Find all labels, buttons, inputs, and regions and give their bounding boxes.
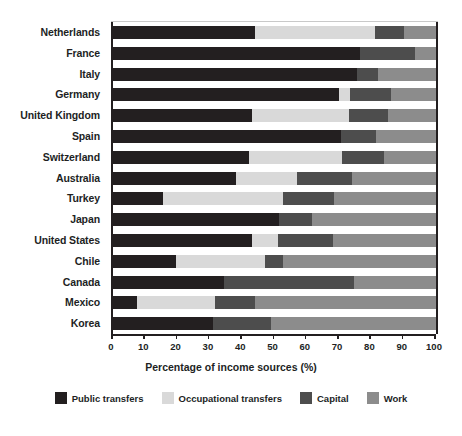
bar-segment-occupational-transfers bbox=[249, 151, 343, 164]
x-axis-tick-label: 0 bbox=[108, 341, 113, 352]
bar-row bbox=[113, 47, 436, 60]
y-axis-label-canada: Canada bbox=[0, 277, 100, 288]
y-axis-label-united-states: United States bbox=[0, 235, 100, 246]
bar-row bbox=[113, 26, 436, 39]
bar-segment-occupational-transfers bbox=[252, 234, 278, 247]
plot-area bbox=[111, 22, 438, 334]
bar-segment-work bbox=[376, 130, 436, 143]
x-axis-tick-label: 40 bbox=[235, 341, 246, 352]
y-axis-label-chile: Chile bbox=[0, 256, 100, 267]
bar-segment-occupational-transfers bbox=[255, 26, 375, 39]
bar-segment-public-transfers bbox=[113, 296, 137, 309]
legend-swatch-icon bbox=[55, 392, 67, 404]
bar-segment-capital bbox=[265, 255, 283, 268]
bar-row bbox=[113, 234, 436, 247]
bar-segment-capital bbox=[342, 151, 384, 164]
x-axis-tick bbox=[176, 334, 178, 339]
bar-segment-capital bbox=[224, 276, 353, 289]
bar-segment-capital bbox=[215, 296, 255, 309]
legend-item-occupational-transfers: Occupational transfers bbox=[162, 392, 282, 404]
x-axis-tick bbox=[111, 334, 113, 339]
bar-segment-capital bbox=[213, 317, 271, 330]
legend-swatch-icon bbox=[300, 392, 312, 404]
y-axis-label-italy: Italy bbox=[0, 69, 100, 80]
bar-segment-capital bbox=[349, 109, 388, 122]
x-axis-tick bbox=[273, 334, 275, 339]
bar-segment-public-transfers bbox=[113, 192, 163, 205]
legend-swatch-icon bbox=[367, 392, 379, 404]
bar-segment-work bbox=[378, 68, 436, 81]
bar-segment-public-transfers bbox=[113, 26, 255, 39]
bar-row bbox=[113, 130, 436, 143]
x-axis-tick bbox=[337, 334, 339, 339]
bar-row bbox=[113, 68, 436, 81]
bar-row bbox=[113, 255, 436, 268]
legend-item-work: Work bbox=[367, 392, 408, 404]
y-axis-label-turkey: Turkey bbox=[0, 193, 100, 204]
y-axis-label-spain: Spain bbox=[0, 131, 100, 142]
bar-row bbox=[113, 213, 436, 226]
bar-segment-public-transfers bbox=[113, 255, 176, 268]
bar-row bbox=[113, 276, 436, 289]
bar-segment-work bbox=[388, 109, 436, 122]
y-axis-label-australia: Australia bbox=[0, 173, 100, 184]
x-axis-tick bbox=[240, 334, 242, 339]
bar-segment-capital bbox=[360, 47, 415, 60]
y-axis-label-france: France bbox=[0, 48, 100, 59]
bar-segment-public-transfers bbox=[113, 151, 249, 164]
bar-segment-capital bbox=[341, 130, 377, 143]
bar-row bbox=[113, 151, 436, 164]
x-axis-tick bbox=[369, 334, 371, 339]
y-axis-label-japan: Japan bbox=[0, 214, 100, 225]
bar-row bbox=[113, 88, 436, 101]
bar-segment-capital bbox=[278, 234, 333, 247]
bar-segment-occupational-transfers bbox=[176, 255, 265, 268]
bar-segment-work bbox=[391, 88, 436, 101]
bar-segment-public-transfers bbox=[113, 88, 339, 101]
bar-row bbox=[113, 192, 436, 205]
bar-segment-work bbox=[333, 234, 436, 247]
bar-segment-capital bbox=[350, 88, 390, 101]
y-axis-label-germany: Germany bbox=[0, 89, 100, 100]
bar-segment-capital bbox=[375, 26, 404, 39]
bar-segment-public-transfers bbox=[113, 47, 360, 60]
bar-segment-public-transfers bbox=[113, 276, 224, 289]
bar-segment-occupational-transfers bbox=[137, 296, 215, 309]
legend-item-capital: Capital bbox=[300, 392, 349, 404]
bar-segment-work bbox=[255, 296, 436, 309]
x-axis-tick-label: 100 bbox=[426, 341, 442, 352]
x-axis-tick bbox=[143, 334, 145, 339]
x-axis-tick bbox=[402, 334, 404, 339]
y-axis-label-switzerland: Switzerland bbox=[0, 152, 100, 163]
legend-item-public-transfers: Public transfers bbox=[55, 392, 144, 404]
y-axis-category-labels: NetherlandsFranceItalyGermanyUnited King… bbox=[0, 22, 106, 334]
bar-segment-work bbox=[271, 317, 436, 330]
y-axis-label-united-kingdom: United Kingdom bbox=[0, 110, 100, 121]
x-axis-tick-label: 80 bbox=[364, 341, 375, 352]
bar-segment-work bbox=[354, 276, 436, 289]
bar-segment-capital bbox=[279, 213, 311, 226]
bar-segment-capital bbox=[297, 172, 352, 185]
bar-row bbox=[113, 109, 436, 122]
legend-swatch-icon bbox=[162, 392, 174, 404]
bar-segment-work bbox=[384, 151, 436, 164]
bar-row bbox=[113, 296, 436, 309]
bar-segment-occupational-transfers bbox=[252, 109, 349, 122]
bar-segment-occupational-transfers bbox=[163, 192, 283, 205]
x-axis-tick-label: 60 bbox=[300, 341, 311, 352]
x-axis-tick bbox=[434, 334, 436, 339]
legend-label: Capital bbox=[317, 393, 349, 404]
bar-segment-occupational-transfers bbox=[339, 88, 350, 101]
y-axis-label-netherlands: Netherlands bbox=[0, 27, 100, 38]
chart-legend: Public transfersOccupational transfersCa… bbox=[0, 392, 462, 404]
x-axis-tick-label: 10 bbox=[138, 341, 149, 352]
x-axis-tick bbox=[208, 334, 210, 339]
y-axis-label-korea: Korea bbox=[0, 318, 100, 329]
x-axis-tick bbox=[305, 334, 307, 339]
x-axis-tick-label: 20 bbox=[170, 341, 181, 352]
bar-segment-capital bbox=[283, 192, 335, 205]
bar-segment-public-transfers bbox=[113, 68, 357, 81]
x-axis-tick-label: 70 bbox=[332, 341, 343, 352]
bar-row bbox=[113, 317, 436, 330]
bar-segment-public-transfers bbox=[113, 172, 236, 185]
